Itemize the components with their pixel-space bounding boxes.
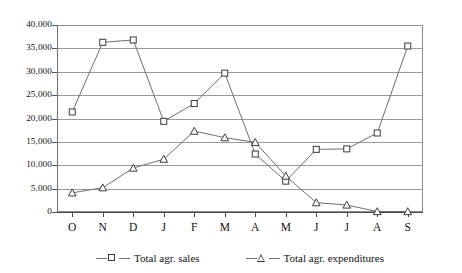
gridline bbox=[58, 142, 422, 143]
y-axis-line bbox=[57, 25, 58, 213]
y-axis-tick-label: 5,000 bbox=[31, 184, 52, 193]
x-axis-tick-label: D bbox=[120, 221, 146, 233]
gridline bbox=[58, 48, 422, 49]
x-axis-tick-label: S bbox=[395, 221, 421, 233]
x-axis-tick-mark bbox=[194, 212, 195, 217]
x-axis-tick-label: J bbox=[151, 221, 177, 233]
x-axis-tick-label: O bbox=[59, 221, 85, 233]
x-axis-tick-mark bbox=[225, 212, 226, 217]
legend-label-expenditures: Total agr. expenditures bbox=[284, 252, 384, 264]
x-axis-tick-mark bbox=[347, 212, 348, 217]
x-axis-tick-label: F bbox=[181, 221, 207, 233]
triangle-marker-icon bbox=[246, 252, 280, 264]
x-axis-tick-label: N bbox=[90, 221, 116, 233]
x-axis-tick-mark bbox=[103, 212, 104, 217]
x-axis-tick-label: A bbox=[242, 221, 268, 233]
x-axis-tick-label: M bbox=[273, 221, 299, 233]
y-axis-tick-label: 10,000 bbox=[26, 160, 52, 169]
y-axis: 05,00010,00015,00020,00025,00030,00035,0… bbox=[0, 0, 54, 273]
x-axis-tick-label: A bbox=[364, 221, 390, 233]
legend-label-sales: Total agr. sales bbox=[134, 252, 200, 264]
y-axis-tick-label: 25,000 bbox=[26, 90, 52, 99]
square-marker-icon bbox=[96, 252, 130, 264]
x-axis-tick-label: J bbox=[303, 221, 329, 233]
x-axis-tick-mark bbox=[316, 212, 317, 217]
gridline bbox=[58, 165, 422, 166]
gridline bbox=[58, 72, 422, 73]
y-axis-tick-label: 35,000 bbox=[26, 43, 52, 52]
chart-legend: Total agr. sales Total agr. expenditures bbox=[57, 249, 423, 267]
x-axis-line bbox=[57, 212, 423, 213]
y-axis-tick-label: 20,000 bbox=[26, 114, 52, 123]
x-axis-tick-mark bbox=[255, 212, 256, 217]
x-axis-tick-mark bbox=[133, 212, 134, 217]
y-axis-tick-label: 15,000 bbox=[26, 137, 52, 146]
x-axis-tick-mark bbox=[286, 212, 287, 217]
line-chart: 05,00010,00015,00020,00025,00030,00035,0… bbox=[0, 0, 462, 273]
gridline bbox=[58, 95, 422, 96]
plot-area bbox=[57, 25, 423, 212]
y-axis-tick-label: 40,000 bbox=[26, 20, 52, 29]
x-axis-tick-mark bbox=[377, 212, 378, 217]
gridline bbox=[58, 189, 422, 190]
x-axis-tick-mark bbox=[72, 212, 73, 217]
gridline bbox=[58, 119, 422, 120]
x-axis-tick-label: M bbox=[212, 221, 238, 233]
y-axis-tick-label: 30,000 bbox=[26, 67, 52, 76]
legend-item-expenditures: Total agr. expenditures bbox=[246, 252, 384, 264]
x-axis-tick-mark bbox=[408, 212, 409, 217]
legend-item-sales: Total agr. sales bbox=[96, 252, 200, 264]
x-axis-tick-mark bbox=[164, 212, 165, 217]
x-axis-tick-label: J bbox=[334, 221, 360, 233]
